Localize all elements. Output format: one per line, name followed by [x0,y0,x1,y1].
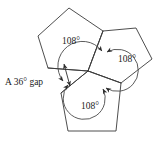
figure-canvas: 108° 108° 108° A 36° gap [0,0,158,144]
angle-label-top-left: 108° [62,36,80,46]
pentagon-gap-figure: 108° 108° 108° A 36° gap [0,0,158,144]
angle-label-right: 108° [118,54,136,64]
gap-label: A 36° gap [5,77,43,87]
angle-label-bottom: 108° [81,101,99,111]
